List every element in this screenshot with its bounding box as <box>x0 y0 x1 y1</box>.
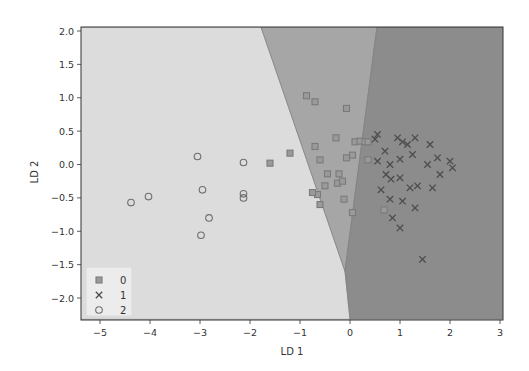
data-point-class-0 <box>340 178 346 184</box>
y-tick-label: 1.0 <box>59 92 74 103</box>
x-axis: −5−4−3−2−10123 <box>93 320 503 338</box>
x-tick-label: −4 <box>143 327 157 338</box>
x-tick-label: 2 <box>447 327 453 338</box>
y-axis: −2.0−1.5−1.0−0.50.00.51.01.52.0 <box>51 26 81 304</box>
data-point-class-0 <box>336 171 342 177</box>
legend: 012 <box>86 267 132 316</box>
y-tick-label: 0.5 <box>59 126 74 137</box>
lda-decision-region-chart: −5−4−3−2−10123 −2.0−1.5−1.0−0.50.00.51.0… <box>0 0 529 371</box>
data-point-class-0 <box>381 207 387 213</box>
data-point-class-0 <box>312 143 318 149</box>
data-point-class-0 <box>317 202 323 208</box>
y-tick-label: −0.5 <box>51 192 74 203</box>
y-tick-label: −1.0 <box>51 226 74 237</box>
y-tick-label: −2.0 <box>51 293 74 304</box>
legend-label-1: 1 <box>120 290 126 301</box>
x-axis-label: LD 1 <box>281 346 304 357</box>
data-point-class-0 <box>317 157 323 163</box>
data-point-class-0 <box>344 155 350 161</box>
data-point-class-0 <box>341 196 347 202</box>
data-point-class-0 <box>333 135 339 141</box>
y-axis-label: LD 2 <box>29 161 40 184</box>
y-tick-label: 2.0 <box>59 26 74 37</box>
x-tick-label: 0 <box>347 327 353 338</box>
x-tick-label: 1 <box>397 327 403 338</box>
y-tick-label: −1.5 <box>51 259 74 270</box>
data-point-class-0 <box>365 139 371 145</box>
data-point-class-0 <box>365 157 371 163</box>
x-tick-label: −1 <box>293 327 307 338</box>
x-tick-label: −3 <box>193 327 207 338</box>
legend-label-0: 0 <box>120 275 126 286</box>
data-point-class-0 <box>350 210 356 216</box>
x-tick-label: −5 <box>93 327 107 338</box>
data-point-class-0 <box>312 99 318 105</box>
data-point-class-0 <box>325 171 331 177</box>
data-point-class-0 <box>350 152 356 158</box>
data-point-class-0 <box>304 93 310 99</box>
legend-label-2: 2 <box>120 305 126 316</box>
data-point-class-0 <box>344 105 350 111</box>
data-point-class-0 <box>287 150 293 156</box>
data-point-class-0 <box>322 183 328 189</box>
data-point-class-0 <box>310 190 316 196</box>
x-tick-label: 3 <box>497 327 503 338</box>
y-tick-label: 1.5 <box>59 59 74 70</box>
y-tick-label: 0.0 <box>59 159 74 170</box>
legend-marker-0 <box>96 277 102 283</box>
x-tick-label: −2 <box>243 327 257 338</box>
data-point-class-0 <box>267 160 273 166</box>
